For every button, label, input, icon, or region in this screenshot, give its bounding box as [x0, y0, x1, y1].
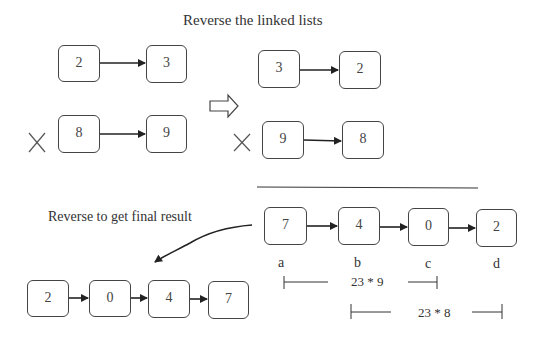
list-node: 8: [342, 121, 384, 159]
span-label-23x8: 23 * 8: [418, 305, 451, 321]
hollow-right-arrow-icon: [210, 95, 238, 117]
result-node: 7: [208, 281, 249, 319]
node-label-a: a: [278, 255, 284, 271]
list-node: 2: [58, 45, 100, 82]
curved-arrow-icon: [155, 225, 252, 262]
list-node: 9: [146, 115, 187, 153]
result-node: 0: [89, 280, 131, 317]
arrow-right-icon: [304, 140, 341, 141]
x-mark-icon: [234, 134, 250, 151]
x-mark-icon: [29, 133, 45, 152]
final-result-caption: Reverse to get final result: [48, 209, 192, 225]
result-node: 2: [27, 280, 69, 317]
list-node: 9: [262, 121, 304, 159]
node-label-b: b: [354, 255, 361, 271]
node-label-c: c: [425, 256, 431, 272]
list-node: 8: [58, 115, 100, 153]
list-node: 3: [258, 50, 300, 88]
result-node: 4: [148, 280, 190, 318]
list-node: 3: [146, 45, 187, 83]
list-node: 2: [339, 51, 381, 89]
product-node-d: 2: [476, 209, 517, 247]
product-node-a: 7: [264, 207, 307, 245]
span-label-23x9: 23 * 9: [351, 274, 384, 290]
product-node-b: 4: [338, 207, 380, 245]
node-label-d: d: [493, 256, 500, 272]
separator-line: [257, 187, 478, 188]
product-node-c: 0: [408, 208, 449, 246]
